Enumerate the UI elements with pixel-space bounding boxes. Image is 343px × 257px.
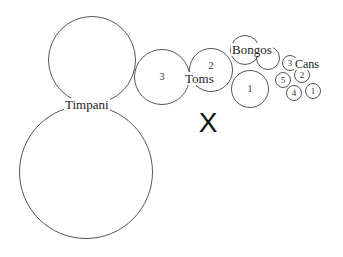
conductor-x-marker: X (199, 109, 218, 137)
drum-number-label: 1 (248, 84, 253, 94)
drum-circle-timpani-lower (19, 105, 153, 239)
drum-number-label: 1 (311, 87, 316, 96)
group-label-bongos: Bongos (231, 43, 273, 56)
drum-number-label: 2 (300, 71, 305, 80)
drum-number-label: 3 (288, 59, 293, 68)
group-label-toms: Toms (184, 72, 215, 85)
drum-number-label: 3 (160, 72, 165, 82)
group-label-cans: Cans (294, 58, 320, 70)
instrument-layout-diagram: Timpani32Toms1Bongos32541CansX (0, 0, 343, 257)
drum-number-label: 2 (209, 61, 214, 71)
group-label-timpani: Timpani (64, 98, 110, 111)
drum-number-label: 4 (292, 89, 297, 98)
drum-circle-timpani-upper (48, 16, 136, 104)
drum-number-label: 5 (281, 76, 286, 85)
